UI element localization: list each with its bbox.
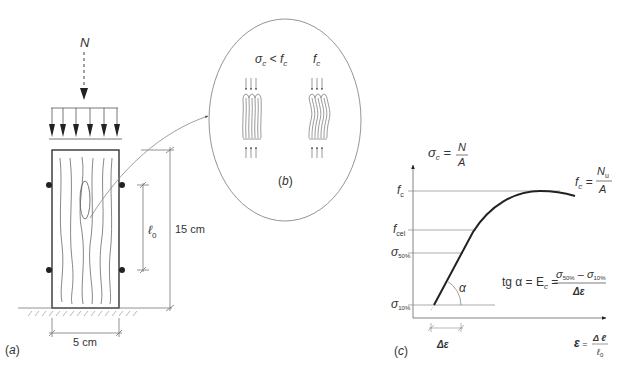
- gauge-points: [46, 182, 125, 273]
- svg-text:Nu: Nu: [597, 165, 609, 179]
- width-dimension: [49, 318, 122, 337]
- delta-strain-label: Δε: [436, 339, 449, 350]
- svg-text:ℓ0: ℓ0: [596, 347, 604, 358]
- wood-specimen: [52, 150, 119, 308]
- compression-test-diagram: N: [0, 0, 619, 370]
- label-below-strength: σc < fc: [255, 52, 287, 68]
- detail-circle: [209, 19, 361, 221]
- distributed-load: [49, 108, 122, 139]
- svg-text:σ50% – σ10%: σ50% – σ10%: [556, 268, 606, 281]
- caption-b: (b): [278, 174, 293, 188]
- modulus-formula: tg α = Ec = σ50% – σ10% Δε: [502, 268, 606, 297]
- load-arrowheads-icon: [49, 124, 120, 137]
- ground-hatching: [28, 311, 137, 316]
- svg-text:fc: fc: [397, 183, 404, 198]
- svg-text:Δ ℓ: Δ ℓ: [592, 333, 606, 343]
- svg-text:A: A: [457, 156, 465, 168]
- caption-c: (c): [394, 344, 408, 358]
- peak-label: fc = Nu A: [575, 165, 612, 195]
- panel-c-stress-strain: σc = N A fc fcel σ50% σ10% α fc = Nu: [391, 141, 612, 358]
- svg-text:N: N: [458, 141, 466, 153]
- caption-a: (a): [5, 343, 20, 357]
- gauge-length-label: ℓ0: [148, 223, 157, 240]
- y-tick-labels: fc fcel σ50% σ10%: [391, 183, 411, 311]
- svg-text:Δε: Δε: [572, 286, 585, 297]
- label-at-strength: fc: [313, 52, 320, 68]
- y-axis-label: σc = N A: [428, 141, 468, 168]
- svg-text:σ10%: σ10%: [391, 297, 411, 311]
- load-label: N: [80, 35, 90, 50]
- svg-text:σc =: σc =: [428, 145, 451, 162]
- curve-extrapolation: [431, 307, 433, 310]
- svg-text:ε =: ε =: [574, 336, 588, 350]
- svg-text:fc =: fc =: [575, 175, 593, 191]
- load-arrowhead-icon: [80, 88, 88, 100]
- height-dimension: [141, 147, 174, 311]
- x-axis-label: ε = Δ ℓ ℓ0: [574, 333, 608, 358]
- buckled-fibers: [309, 78, 330, 158]
- panel-b-detail: σc < fc fc: [209, 19, 361, 221]
- zoom-callout-arrow: [90, 116, 208, 218]
- svg-text:σ50%: σ50%: [391, 245, 411, 259]
- straight-fibers: [243, 78, 262, 158]
- width-label: 5 cm: [73, 336, 97, 348]
- svg-text:A: A: [598, 183, 606, 195]
- svg-text:tg α = Ec =: tg α = Ec =: [502, 275, 558, 291]
- wood-grain: [60, 157, 112, 304]
- height-label: 15 cm: [175, 223, 205, 235]
- svg-text:fcel: fcel: [393, 222, 406, 237]
- knot-icon: [80, 181, 90, 219]
- delta-strain-dimension: [428, 323, 464, 332]
- angle-label: α: [459, 281, 467, 295]
